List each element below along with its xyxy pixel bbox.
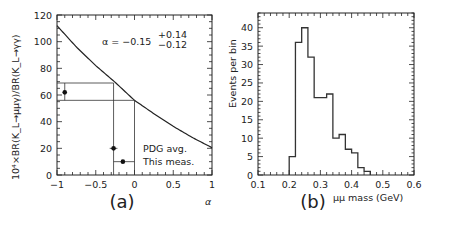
x-axis-label: α	[205, 196, 212, 207]
y-tick-label: 35	[241, 41, 253, 52]
x-tick-label: 0.5	[166, 179, 181, 190]
figure: −1−0.500.51020406080100120PDG avg.This m…	[0, 0, 452, 227]
y-tick-label: 25	[241, 77, 253, 88]
y-tick-label: 60	[40, 90, 52, 101]
data-point	[62, 90, 67, 95]
legend-pdg: PDG avg.	[143, 143, 187, 154]
data-point	[121, 159, 126, 164]
y-tick-label: 40	[40, 116, 52, 127]
x-tick-label: −1	[50, 179, 64, 190]
panel-label-a: (a)	[109, 191, 134, 212]
y-tick-label: 0	[247, 170, 253, 181]
y-tick-label: 40	[241, 22, 253, 33]
x-tick-label: 0.3	[313, 179, 328, 190]
y-tick-label: 15	[241, 114, 253, 125]
y-axis-label: Events per bin	[227, 39, 238, 108]
x-tick-label: 0.1	[250, 179, 265, 190]
x-tick-label: 0.6	[406, 179, 421, 190]
panel-b-histogram: 0.10.20.30.40.50.60510152025303540μμ mas…	[227, 13, 422, 212]
x-tick-label: −0.5	[84, 179, 107, 190]
x-tick-label: 0	[131, 179, 137, 190]
y-tick-label: 100	[34, 36, 52, 47]
alpha-err-minus: −0.12	[158, 39, 187, 50]
y-tick-label: 5	[247, 151, 253, 162]
x-tick-label: 1	[209, 179, 215, 190]
y-tick-label: 20	[40, 143, 52, 154]
histogram-steps	[289, 28, 370, 175]
y-tick-label: 120	[34, 10, 52, 21]
data-point	[111, 146, 116, 151]
alpha-annotation: α = −0.15	[102, 36, 151, 47]
panel-label-b: (b)	[300, 191, 325, 212]
y-tick-label: 10	[241, 133, 253, 144]
plot-frame	[258, 13, 414, 175]
legend-this-meas: This meas.	[142, 156, 194, 167]
y-tick-label: 20	[241, 96, 253, 107]
x-tick-label: 0.2	[282, 179, 297, 190]
y-tick-label: 30	[241, 59, 253, 70]
y-axis-label: 10⁴×BR(K_L→μμγ)/BR(K_L→γγ)	[10, 34, 21, 180]
panel-a-chart: −1−0.500.51020406080100120PDG avg.This m…	[10, 10, 215, 213]
x-axis-label: μμ mass (GeV)	[333, 192, 403, 203]
y-tick-label: 0	[46, 170, 52, 181]
y-tick-label: 80	[40, 63, 52, 74]
x-tick-label: 0.4	[344, 179, 359, 190]
x-tick-label: 0.5	[375, 179, 390, 190]
